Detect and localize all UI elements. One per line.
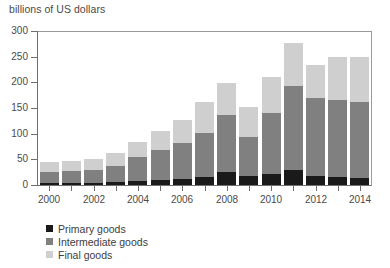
bar-segment-final-goods-2002 (84, 159, 103, 170)
bar-2008 (217, 31, 236, 185)
bar-segment-intermediate-goods-2007 (195, 133, 214, 177)
plot-area (38, 31, 372, 185)
legend-item: Primary goods (46, 222, 148, 235)
bar-segment-primary-goods-2010 (262, 174, 281, 185)
y-axis-tick-label: 250 (11, 52, 28, 62)
x-axis-tick-label: 2014 (344, 194, 376, 205)
y-axis-tick (31, 57, 37, 58)
bar-segment-intermediate-goods-2004 (128, 157, 147, 181)
y-axis-tick-label: 300 (11, 26, 28, 36)
x-axis-tick (338, 186, 339, 191)
bar-segment-final-goods-2003 (106, 153, 125, 166)
bar-segment-final-goods-2001 (62, 161, 81, 171)
bar-segment-final-goods-2011 (284, 43, 303, 86)
y-axis-tick (31, 108, 37, 109)
bar-segment-final-goods-2012 (306, 65, 325, 98)
bar-segment-intermediate-goods-2014 (350, 102, 369, 178)
bar-2010 (262, 31, 281, 185)
bar-2004 (128, 31, 147, 185)
bar-segment-primary-goods-2007 (195, 177, 214, 185)
bar-segment-final-goods-2013 (328, 57, 347, 100)
x-axis-tick (360, 186, 361, 191)
legend-item-label: Final goods (58, 249, 112, 261)
bar-segment-intermediate-goods-2002 (84, 170, 103, 183)
legend-swatch-icon (46, 238, 53, 245)
bar-segment-primary-goods-2008 (217, 172, 236, 185)
legend-item: Intermediate goods (46, 235, 148, 248)
y-axis-tick-label: 100 (11, 129, 28, 139)
chart-legend: Primary goodsIntermediate goodsFinal goo… (46, 222, 148, 261)
x-axis-tick (49, 186, 50, 191)
bar-segment-primary-goods-2000 (40, 183, 59, 185)
chart-axis-title: billions of US dollars (9, 3, 105, 15)
y-axis-tick (31, 185, 37, 186)
bar-2001 (62, 31, 81, 185)
bar-2012 (306, 31, 325, 185)
bar-segment-intermediate-goods-2000 (40, 172, 59, 184)
bar-segment-primary-goods-2013 (328, 177, 347, 185)
bar-segment-intermediate-goods-2003 (106, 166, 125, 182)
bar-2002 (84, 31, 103, 185)
x-axis-tick (116, 186, 117, 191)
x-axis-tick (249, 186, 250, 191)
bar-2003 (106, 31, 125, 185)
bar-segment-primary-goods-2011 (284, 170, 303, 185)
bar-segment-final-goods-2008 (217, 83, 236, 115)
y-axis-tick-label: 200 (11, 77, 28, 87)
bar-segment-final-goods-2009 (239, 107, 258, 137)
x-axis-tick (71, 186, 72, 191)
bar-segment-final-goods-2006 (173, 120, 192, 143)
bar-segment-primary-goods-2002 (84, 183, 103, 185)
y-axis-tick (31, 134, 37, 135)
bar-segment-final-goods-2007 (195, 102, 214, 133)
bar-segment-primary-goods-2003 (106, 182, 125, 185)
x-axis-tick (160, 186, 161, 191)
legend-item-label: Primary goods (58, 223, 126, 235)
bar-segment-final-goods-2014 (350, 57, 369, 102)
bar-segment-intermediate-goods-2011 (284, 86, 303, 170)
x-axis-tick-label: 2008 (211, 194, 243, 205)
legend-swatch-icon (46, 225, 53, 232)
legend-item: Final goods (46, 248, 148, 261)
bar-segment-intermediate-goods-2012 (306, 98, 325, 176)
x-axis-tick-label: 2006 (166, 194, 198, 205)
bar-segment-primary-goods-2014 (350, 178, 369, 185)
y-axis-tick (31, 82, 37, 83)
y-axis-tick-label: 50 (17, 154, 28, 164)
bar-segment-final-goods-2010 (262, 77, 281, 113)
bar-segment-primary-goods-2009 (239, 176, 258, 185)
x-axis-tick (316, 186, 317, 191)
x-axis-tick (138, 186, 139, 191)
bar-2014 (350, 31, 369, 185)
bar-2013 (328, 31, 347, 185)
bar-segment-intermediate-goods-2010 (262, 113, 281, 174)
bar-segment-intermediate-goods-2008 (217, 115, 236, 172)
bar-segment-final-goods-2004 (128, 142, 147, 157)
bar-2011 (284, 31, 303, 185)
bar-2000 (40, 31, 59, 185)
legend-item-label: Intermediate goods (58, 236, 148, 248)
bar-2006 (173, 31, 192, 185)
y-axis-tick-label: 150 (11, 103, 28, 113)
bar-segment-primary-goods-2005 (151, 180, 170, 185)
x-axis-tick (182, 186, 183, 191)
x-axis-tick-label: 2010 (255, 194, 287, 205)
x-axis-tick (227, 186, 228, 191)
bar-segment-primary-goods-2001 (62, 183, 81, 185)
x-axis-tick (271, 186, 272, 191)
bar-segment-primary-goods-2006 (173, 179, 192, 185)
x-axis-tick (94, 186, 95, 191)
x-axis-tick-label: 2000 (33, 194, 65, 205)
bar-segment-intermediate-goods-2006 (173, 143, 192, 179)
stacked-bar-chart: billions of US dollars 05010015020025030… (0, 0, 390, 268)
y-axis-tick (31, 31, 37, 32)
bar-segment-final-goods-2000 (40, 162, 59, 171)
bar-2005 (151, 31, 170, 185)
x-axis-tick-label: 2002 (78, 194, 110, 205)
x-axis-tick (293, 186, 294, 191)
bar-segment-primary-goods-2004 (128, 181, 147, 185)
bar-segment-intermediate-goods-2013 (328, 100, 347, 177)
x-axis-tick-label: 2004 (122, 194, 154, 205)
bar-segment-final-goods-2005 (151, 131, 170, 150)
bar-segment-intermediate-goods-2005 (151, 150, 170, 180)
